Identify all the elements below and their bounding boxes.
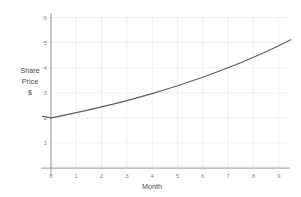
- y-tick-label-3: 3: [44, 89, 48, 96]
- chart-container: 6 5 4 3 2 1 0 1 2 3 4 5 6 7 8 9 Share Pr…: [0, 0, 301, 197]
- y-axis-title-line-1: Share: [20, 66, 39, 75]
- x-tick-label-9: 9: [277, 172, 281, 179]
- x-tick-label-0: 0: [49, 172, 53, 179]
- y-tick-label-1: 1: [44, 139, 48, 146]
- y-axis-title-line-3: $: [28, 88, 32, 97]
- x-tick-label-5: 5: [176, 172, 180, 179]
- x-tick-label-7: 7: [226, 172, 230, 179]
- x-tick-label-2: 2: [100, 172, 104, 179]
- share-price-line-chart: 6 5 4 3 2 1 0 1 2 3 4 5 6 7 8 9 Share Pr…: [0, 0, 301, 197]
- x-tick-label-6: 6: [201, 172, 205, 179]
- x-tick-label-1: 1: [75, 172, 79, 179]
- x-tick-label-4: 4: [150, 172, 154, 179]
- y-axis-title-line-2: Price: [22, 77, 38, 86]
- chart-background: [0, 0, 301, 197]
- y-tick-label-5: 5: [44, 39, 48, 46]
- y-tick-label-4: 4: [44, 64, 48, 71]
- x-axis-title: Month: [142, 182, 162, 191]
- y-tick-label-6: 6: [44, 14, 48, 21]
- x-tick-label-8: 8: [252, 172, 256, 179]
- y-tick-label-2: 2: [44, 114, 48, 121]
- x-tick-label-3: 3: [125, 172, 129, 179]
